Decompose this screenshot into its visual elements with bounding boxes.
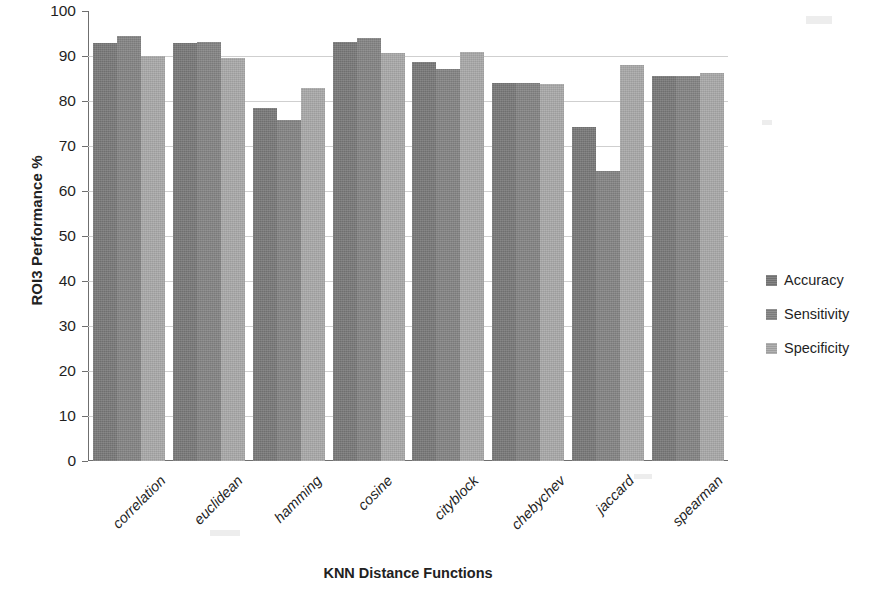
scan-speckle bbox=[806, 16, 832, 24]
x-tick-cell: cosine bbox=[329, 466, 409, 556]
x-tick-label: correlation bbox=[109, 472, 168, 531]
x-tick-cell: jaccard bbox=[568, 466, 648, 556]
bar-sensitivity bbox=[676, 76, 700, 461]
y-tick-mark bbox=[82, 191, 88, 192]
bar-specificity bbox=[620, 65, 644, 461]
x-tick-label: cityblock bbox=[431, 472, 482, 523]
legend-item: Accuracy bbox=[766, 263, 872, 297]
y-tick-label: 10 bbox=[59, 407, 76, 425]
x-tick-cell: cityblock bbox=[409, 466, 489, 556]
y-axis-title: ROI3 Performance % bbox=[28, 111, 45, 351]
legend-swatch-icon bbox=[766, 309, 777, 320]
y-tick-label: 70 bbox=[59, 137, 76, 155]
y-tick-mark bbox=[82, 371, 88, 372]
legend-swatch-icon bbox=[766, 343, 777, 354]
x-tick-label: spearman bbox=[669, 472, 726, 529]
bar-sensitivity bbox=[516, 83, 540, 461]
bar-specificity bbox=[381, 53, 405, 461]
legend-item: Sensitivity bbox=[766, 297, 872, 331]
bar-group bbox=[89, 11, 169, 461]
bar-accuracy bbox=[412, 62, 436, 461]
bar-sensitivity bbox=[596, 171, 620, 461]
y-tick-label: 30 bbox=[59, 317, 76, 335]
bar-specificity bbox=[540, 84, 564, 461]
bar-accuracy bbox=[253, 108, 277, 461]
y-tick-label: 90 bbox=[59, 47, 76, 65]
bar-sensitivity bbox=[197, 42, 221, 461]
bar-group bbox=[329, 11, 409, 461]
bar-accuracy bbox=[572, 127, 596, 461]
y-tick-mark bbox=[82, 146, 88, 147]
bar-sensitivity bbox=[357, 38, 381, 461]
legend-label: Sensitivity bbox=[784, 306, 849, 322]
bar-group bbox=[409, 11, 489, 461]
y-tick-mark bbox=[82, 416, 88, 417]
x-tick-cell: chebychev bbox=[488, 466, 568, 556]
bar-sensitivity bbox=[436, 69, 460, 461]
x-tick-cell: hamming bbox=[249, 466, 329, 556]
x-tick-label: cosine bbox=[354, 472, 395, 513]
bar-specificity bbox=[460, 52, 484, 461]
y-tick-mark bbox=[82, 101, 88, 102]
x-tick-label: euclidean bbox=[190, 472, 245, 527]
y-tick-label: 20 bbox=[59, 362, 76, 380]
bar-specificity bbox=[301, 88, 325, 462]
y-tick-mark bbox=[82, 236, 88, 237]
y-tick-label: 50 bbox=[59, 227, 76, 245]
bar-accuracy bbox=[492, 83, 516, 461]
bar-chart: ROI3 Performance % 100908070605040302010… bbox=[0, 0, 872, 598]
bar-group bbox=[488, 11, 568, 461]
chart-legend: AccuracySensitivitySpecificity bbox=[766, 263, 872, 365]
x-tick-label: chebychev bbox=[508, 472, 568, 532]
legend-item: Specificity bbox=[766, 331, 872, 365]
bar-accuracy bbox=[652, 76, 676, 461]
bar-accuracy bbox=[333, 42, 357, 461]
bar-accuracy bbox=[173, 43, 197, 462]
scan-speckle bbox=[762, 120, 772, 125]
x-tick-cell: correlation bbox=[89, 466, 169, 556]
bar-specificity bbox=[221, 58, 245, 461]
y-tick-label: 40 bbox=[59, 272, 76, 290]
y-tick-label: 80 bbox=[59, 92, 76, 110]
y-tick-mark bbox=[82, 461, 88, 462]
legend-label: Specificity bbox=[784, 340, 849, 356]
y-tick-label: 60 bbox=[59, 182, 76, 200]
x-tick-cell: spearman bbox=[648, 466, 728, 556]
legend-swatch-icon bbox=[766, 275, 777, 286]
y-tick-mark bbox=[82, 281, 88, 282]
y-tick-mark bbox=[82, 326, 88, 327]
plot-area: 1009080706050403020100 bbox=[88, 11, 728, 461]
y-tick-mark bbox=[82, 56, 88, 57]
x-tick-cell: euclidean bbox=[169, 466, 249, 556]
y-tick-label: 100 bbox=[50, 2, 76, 20]
y-tick-label: 0 bbox=[67, 452, 76, 470]
bar-group bbox=[169, 11, 249, 461]
bar-accuracy bbox=[93, 43, 117, 462]
bar-group bbox=[568, 11, 648, 461]
bar-sensitivity bbox=[277, 120, 301, 461]
bar-sensitivity bbox=[117, 36, 141, 461]
x-tick-label: jaccard bbox=[593, 472, 637, 516]
bar-specificity bbox=[141, 56, 165, 461]
x-axis-title: KNN Distance Functions bbox=[88, 565, 728, 581]
x-tick-labels: correlationeuclideanhammingcosinecityblo… bbox=[89, 466, 728, 556]
x-tick-label: hamming bbox=[271, 472, 324, 525]
bar-specificity bbox=[700, 73, 724, 461]
bar-groups bbox=[89, 11, 728, 461]
y-tick-mark bbox=[82, 11, 88, 12]
bar-group bbox=[648, 11, 728, 461]
bar-group bbox=[249, 11, 329, 461]
legend-label: Accuracy bbox=[784, 272, 844, 288]
